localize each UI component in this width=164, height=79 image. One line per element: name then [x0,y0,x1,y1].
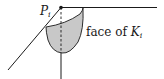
face-label-text: face of [86,25,131,39]
face-label-math-subscript: i [140,31,143,40]
point-pi-marker [59,6,63,10]
point-label-base: P [40,4,48,18]
face-label-math-base: K [131,25,140,39]
point-label-subscript: i [48,10,51,19]
face-label: face of Ki [86,26,142,40]
face-region [46,8,83,53]
point-label: Pi [40,5,51,19]
